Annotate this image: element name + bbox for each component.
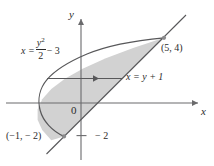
axis-x-label: x bbox=[201, 106, 206, 117]
point-label-5-4: (5, 4) bbox=[161, 43, 183, 53]
parabola-eq-rhs: − 3 bbox=[47, 46, 60, 56]
parabola-eq-denominator: 2 bbox=[36, 51, 46, 62]
math-figure: y x 0 (5, 4) (−1, − 2) − 2 x = y + 1 x =… bbox=[0, 0, 214, 166]
tick-label-y-neg2: − 2 bbox=[95, 131, 108, 141]
figure-canvas bbox=[0, 0, 214, 166]
origin-label: 0 bbox=[71, 105, 77, 116]
parabola-eq-numerator: y2 bbox=[36, 38, 46, 49]
parabola-eq-fraction: y22 bbox=[36, 38, 46, 61]
line-equation-label: x = y + 1 bbox=[126, 72, 163, 82]
parabola-eq-lhs: x = bbox=[21, 46, 35, 56]
axis-y-label: y bbox=[69, 9, 74, 20]
point-marker-lower bbox=[62, 134, 66, 138]
parabola-equation-label: x =y22− 3 bbox=[21, 39, 60, 62]
point-marker-upper bbox=[162, 36, 166, 40]
parabola-eq-exponent: 2 bbox=[41, 36, 45, 44]
point-label-neg1-neg2: (−1, − 2) bbox=[6, 131, 41, 141]
